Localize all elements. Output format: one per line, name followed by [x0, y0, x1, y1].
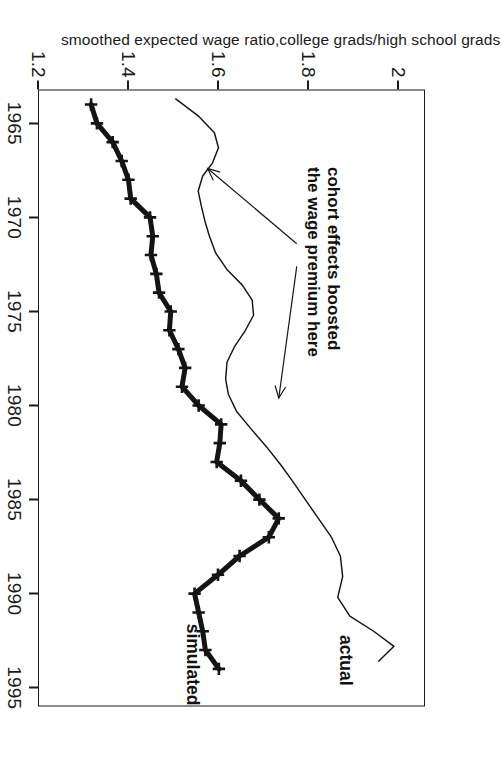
- data-point-marker: [150, 267, 162, 279]
- x-tick-label-1970: 1970: [3, 195, 25, 238]
- y-tick-1.4: [127, 80, 129, 89]
- x-tick-label-1980: 1980: [3, 383, 25, 426]
- y-axis-title: smoothed expected wage ratio,college gra…: [62, 30, 501, 48]
- annotation-line-1: cohort effects boosted: [323, 167, 344, 357]
- x-tick-1980: [29, 404, 38, 406]
- series-label-simulated: simulated: [182, 623, 203, 705]
- annotation-arrows: [208, 168, 297, 397]
- x-tick-1985: [29, 498, 38, 500]
- x-tick-label-1975: 1975: [3, 289, 25, 332]
- x-tick-1975: [29, 310, 38, 312]
- x-tick-label-1990: 1990: [3, 572, 25, 615]
- x-tick-label-1985: 1985: [3, 478, 25, 521]
- data-point-marker: [85, 98, 97, 110]
- series-layer: [38, 89, 425, 706]
- series-simulated: [85, 98, 285, 675]
- series-path-actual: [176, 98, 394, 660]
- x-tick-1990: [29, 592, 38, 594]
- data-point-marker: [147, 230, 159, 242]
- annotation-line-2: the wage premium here: [302, 167, 323, 357]
- y-tick-1.2: [37, 80, 39, 89]
- annotation-text: cohort effects boosted the wage premium …: [302, 167, 343, 357]
- y-tick-2: [397, 80, 399, 89]
- data-point-marker: [145, 248, 157, 260]
- series-label-actual: actual: [335, 635, 356, 686]
- y-tick-1.8: [307, 80, 309, 89]
- data-point-marker: [192, 606, 204, 618]
- y-tick-label-1.2: 1.2: [27, 37, 49, 77]
- annotation-arrow-line-1: [279, 266, 297, 398]
- x-tick-1995: [29, 686, 38, 688]
- data-point-marker: [214, 436, 226, 448]
- annotation-arrow-line-2: [208, 168, 297, 243]
- x-tick-1965: [29, 122, 38, 124]
- series-actual: [176, 98, 394, 660]
- x-tick-1970: [29, 216, 38, 218]
- y-tick-1.6: [217, 80, 219, 89]
- x-tick-label-1995: 1995: [3, 666, 25, 709]
- x-tick-label-1965: 1965: [3, 101, 25, 144]
